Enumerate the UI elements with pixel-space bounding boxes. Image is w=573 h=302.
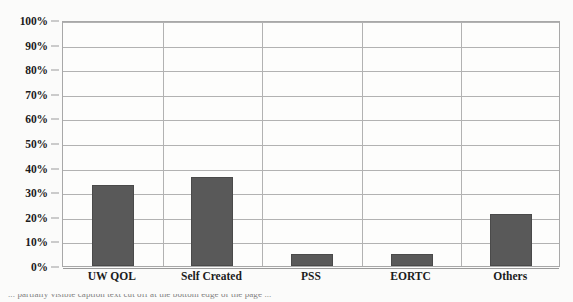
category-separator <box>163 22 164 266</box>
caption-cutoff-sliver: ... partially visible caption text cut o… <box>0 294 573 302</box>
y-tick-mark <box>51 119 59 120</box>
y-tick-mark <box>51 217 59 218</box>
gridline-90% <box>63 47 559 48</box>
x-tick-label-others: Others <box>493 270 527 282</box>
gridline-10% <box>63 243 559 244</box>
bar-chart-figure: 100%90%80%70%60%50%40%30%20%10%0% UW QOL… <box>0 0 573 302</box>
y-tick-label: 10% <box>25 236 48 248</box>
y-axis: 100%90%80%70%60%50%40%30%20%10%0% <box>0 0 62 302</box>
y-tick-label: 60% <box>25 113 48 125</box>
gridline-40% <box>63 170 559 171</box>
x-tick-label-self-created: Self Created <box>181 270 242 282</box>
gridline-0% <box>63 268 559 269</box>
bar-eortc <box>391 254 433 266</box>
category-separator <box>362 22 363 266</box>
y-tick-label: 70% <box>25 89 48 101</box>
y-tick-label: 0% <box>31 261 48 273</box>
gridline-60% <box>63 120 559 121</box>
y-tick-label: 100% <box>20 15 48 27</box>
y-tick-mark <box>51 21 59 22</box>
y-tick-label: 20% <box>25 212 48 224</box>
y-tick-mark <box>51 70 59 71</box>
y-tick-mark <box>51 144 59 145</box>
y-tick-label: 50% <box>25 138 48 150</box>
gridline-80% <box>63 71 559 72</box>
bar-others <box>490 214 532 266</box>
y-tick-mark <box>51 242 59 243</box>
y-tick-label: 80% <box>25 64 48 76</box>
plot-area <box>62 21 560 267</box>
bar-uw-qol <box>92 185 134 266</box>
y-tick-mark <box>51 168 59 169</box>
gridline-70% <box>63 96 559 97</box>
y-tick-mark <box>51 193 59 194</box>
category-separator <box>461 22 462 266</box>
x-tick-label-eortc: EORTC <box>390 270 431 282</box>
bar-pss <box>291 254 333 266</box>
x-tick-label-uw-qol: UW QOL <box>88 270 136 282</box>
gridline-20% <box>63 219 559 220</box>
y-tick-mark <box>51 45 59 46</box>
y-tick-label: 40% <box>25 163 48 175</box>
x-tick-label-pss: PSS <box>301 270 321 282</box>
gridline-30% <box>63 194 559 195</box>
y-tick-mark <box>51 267 59 268</box>
caption-cutoff-text: ... partially visible caption text cut o… <box>8 294 271 299</box>
y-tick-label: 30% <box>25 187 48 199</box>
gridline-100% <box>63 22 559 23</box>
category-separator <box>262 22 263 266</box>
x-axis: UW QOLSelf CreatedPSSEORTCOthers <box>62 270 560 290</box>
gridline-50% <box>63 145 559 146</box>
y-tick-label: 90% <box>25 40 48 52</box>
bar-self-created <box>191 177 233 266</box>
y-tick-mark <box>51 94 59 95</box>
